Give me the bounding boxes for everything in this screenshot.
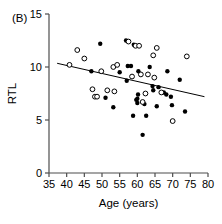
data-point-filled [125,79,129,83]
data-point-open [184,54,189,59]
data-point-filled [131,114,135,118]
data-point-open [170,119,175,124]
data-point-open [140,100,145,105]
data-point-open [137,43,142,48]
x-tick-label: 75 [184,178,196,190]
x-tick-label: 45 [78,178,90,190]
data-point-open [95,94,100,99]
data-point-filled [135,101,139,105]
data-point-filled [151,88,155,92]
data-point-filled [89,69,93,73]
data-point-open [82,56,87,61]
y-tick-label: 10 [30,61,42,73]
x-tick-label: 55 [114,178,126,190]
data-point-filled [140,133,144,137]
data-point-open [67,62,72,67]
data-point-open [75,48,80,53]
data-point-filled [135,97,139,101]
data-point-filled [165,69,169,73]
data-point-filled [136,92,140,96]
y-tick-label: 5 [36,114,42,126]
scatter-plot-figure: 35404550556065707580051015Age (years)RTL… [0,0,222,224]
data-point-filled [156,85,160,89]
y-axis-title: RTL [6,82,18,104]
data-point-open [99,69,104,74]
data-point-open [138,72,143,77]
data-point-filled [129,64,133,68]
data-point-filled [144,114,148,118]
data-point-filled [150,84,154,88]
x-tick-label: 60 [131,178,143,190]
x-tick-label: 50 [96,178,108,190]
data-point-filled [183,109,187,113]
data-point-open [90,87,95,92]
data-point-filled [169,94,173,98]
data-point-filled [98,41,102,45]
data-point-filled [117,70,121,74]
data-point-open [115,62,120,67]
data-point-filled [155,104,159,108]
data-point-open [112,89,117,94]
data-point-open [130,74,135,79]
y-tick-label: 0 [36,167,42,179]
data-point-open [126,39,131,44]
plot-canvas: 35404550556065707580051015Age (years)RTL… [0,0,222,224]
data-point-open [159,90,164,95]
data-point-filled [103,96,107,100]
x-axis-title: Age (years) [99,197,159,209]
data-point-filled [164,92,168,96]
y-tick-label: 15 [30,8,42,20]
x-tick-label: 35 [43,178,55,190]
data-point-filled [111,105,115,109]
regression-line [57,63,204,96]
data-point-filled [170,103,174,107]
data-point-open [152,75,157,80]
panel-label: (B) [12,12,28,24]
data-point-open [146,72,151,77]
data-point-open [151,53,156,58]
data-point-filled [178,78,182,82]
x-tick-label: 65 [149,178,161,190]
data-point-open [154,46,159,51]
data-point-filled [148,65,152,69]
data-point-open [143,91,148,96]
x-tick-label: 80 [202,178,214,190]
x-tick-label: 40 [61,178,73,190]
data-point-open [105,88,110,93]
x-tick-label: 70 [167,178,179,190]
